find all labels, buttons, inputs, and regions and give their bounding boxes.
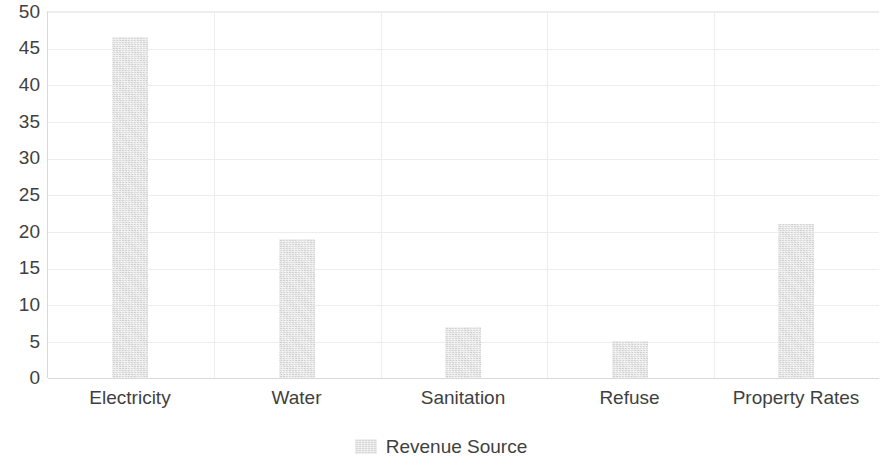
legend-swatch-icon [355,439,377,454]
y-tick-label-0: 0 [2,368,40,387]
bar-sanitation[interactable] [445,327,481,378]
bar-slot-electricity [47,11,213,378]
y-tick-label-20: 20 [2,222,40,241]
bar-slot-property-rates [713,11,879,378]
x-tick-label-electricity: Electricity [47,386,213,410]
bar-refuse[interactable] [612,341,648,378]
bar-electricity[interactable] [112,37,148,378]
y-tick-label-5: 5 [2,332,40,351]
y-tick-label-25: 25 [2,185,40,204]
bar-slot-water [213,11,380,378]
y-axis: 50 45 40 35 30 25 20 15 10 5 0 [0,0,40,466]
y-tick-label-10: 10 [2,295,40,314]
chart-legend: Revenue Source [0,432,882,460]
y-tick-label-30: 30 [2,148,40,167]
bar-water[interactable] [279,239,315,378]
x-tick-label-sanitation: Sanitation [380,386,546,410]
legend-entry-label: Revenue Source [386,437,528,456]
x-axis: Electricity Water Sanitation Refuse Prop… [47,386,879,416]
bar-slot-refuse [546,11,713,378]
y-tick-label-15: 15 [2,258,40,277]
y-tick-label-40: 40 [2,75,40,94]
axis-baseline [48,378,879,379]
x-tick-label-water: Water [213,386,380,410]
bar-chart: 50 45 40 35 30 25 20 15 10 5 0 [0,0,882,466]
y-tick-label-50: 50 [2,2,40,21]
bar-slot-sanitation [380,11,546,378]
y-tick-label-35: 35 [2,112,40,131]
x-tick-label-refuse: Refuse [546,386,713,410]
bar-property-rates[interactable] [778,224,814,378]
y-tick-label-45: 45 [2,38,40,57]
x-tick-label-property-rates: Property Rates [713,386,879,410]
bars-layer [47,11,879,378]
